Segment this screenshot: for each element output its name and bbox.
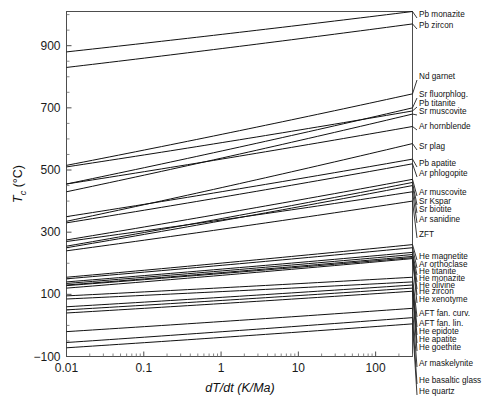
leader-line xyxy=(413,12,418,19)
leader-line xyxy=(413,80,418,94)
x-axis-title: dT/dt (K/Ma) xyxy=(205,381,275,395)
leader-line xyxy=(413,98,418,108)
series-label: AFT fan. curv. xyxy=(419,310,470,318)
y-axis-title: Tc (°C) xyxy=(11,165,28,203)
x-tick-label: 10 xyxy=(292,361,306,375)
chart-figure: −100100300500700900 0.010.1110100 dT/dt … xyxy=(0,0,497,402)
series-label: Ar muscovite xyxy=(419,189,467,197)
series-label: Ar phlogopite xyxy=(419,170,468,178)
series-label: Nd garnet xyxy=(419,73,455,81)
y-tick-label: 100 xyxy=(40,287,60,301)
label-leader-lines xyxy=(413,12,418,396)
series-label: Sr muscovite xyxy=(419,108,467,116)
leader-line xyxy=(413,24,418,29)
series-label: ZFT xyxy=(419,231,434,239)
leader-line xyxy=(413,127,418,131)
series-label: He quartz xyxy=(419,388,455,396)
y-tick-label: 700 xyxy=(40,101,60,115)
x-tick-label: 0.1 xyxy=(135,361,152,375)
series-label: Ar maskelynite xyxy=(419,360,473,368)
y-tick-label: 300 xyxy=(40,225,60,239)
x-tick-label: 100 xyxy=(366,361,386,375)
series-label: Sr fluorphlog. xyxy=(419,91,468,99)
series-label: Sr plag xyxy=(419,143,445,151)
y-tick-label: 500 xyxy=(40,163,60,177)
series-label: Sr biotite xyxy=(419,206,452,214)
series-label: Pb zircon xyxy=(419,22,453,30)
x-tick-label: 1 xyxy=(218,361,225,375)
series-label: Pb apatite xyxy=(419,160,456,168)
series-label: He goethite xyxy=(419,344,461,352)
series-label: He basaltic glass xyxy=(419,377,481,385)
y-axis-tick-labels: −100100300500700900 xyxy=(33,39,60,364)
leader-line xyxy=(413,107,418,111)
series-label: Ar sanidine xyxy=(419,216,460,224)
x-tick-label: 0.01 xyxy=(55,361,79,375)
leader-line xyxy=(413,144,418,150)
series-label: He xenotyme xyxy=(419,296,467,304)
x-axis-tick-labels: 0.010.1110100 xyxy=(55,361,386,375)
leader-line xyxy=(413,114,418,115)
y-tick-label: 900 xyxy=(40,39,60,53)
series-label: Pb monazite xyxy=(419,11,465,19)
series-label: Ar hornblende xyxy=(419,123,471,131)
